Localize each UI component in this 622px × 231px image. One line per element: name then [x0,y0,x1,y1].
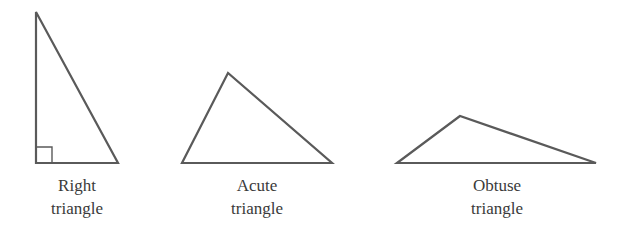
acute-triangle-label-line1: Acute [237,176,278,195]
obtuse-triangle-label-line1: Obtuse [473,176,521,195]
right-triangle-shape [36,12,118,163]
acute-triangle-figure: Acute triangle [182,73,332,218]
triangle-types-diagram: Right triangle Acute triangle Obtuse tri… [0,0,622,231]
right-triangle-label-line2: triangle [51,199,103,218]
acute-triangle-shape [182,73,332,163]
right-triangle-figure: Right triangle [36,12,118,218]
obtuse-triangle-label-line2: triangle [471,199,523,218]
right-angle-marker-icon [36,147,52,163]
acute-triangle-label-line2: triangle [231,199,283,218]
obtuse-triangle-figure: Obtuse triangle [397,116,596,218]
right-triangle-label-line1: Right [58,176,96,195]
obtuse-triangle-shape [397,116,596,163]
